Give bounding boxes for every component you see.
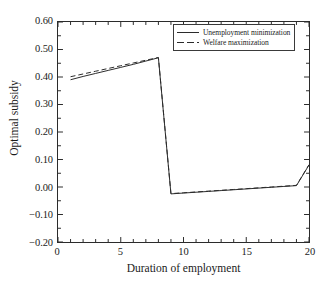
y-tick-label: 0.00 xyxy=(5,182,53,193)
x-tick-label: 15 xyxy=(232,246,262,257)
x-axis-title: Duration of employment xyxy=(57,262,310,274)
x-axis-tick-labels: 05101520 xyxy=(0,246,329,262)
axis-ticks xyxy=(58,22,309,242)
x-tick-label: 10 xyxy=(169,246,199,257)
legend-label-welfare-maximization: Welfare maximization xyxy=(203,38,269,47)
legend-item-welfare-maximization: Welfare maximization xyxy=(177,38,290,47)
x-tick-label: 20 xyxy=(295,246,325,257)
legend-line-sample-dashed xyxy=(177,38,199,47)
legend-line-sample-solid xyxy=(177,28,199,37)
plot-area xyxy=(57,21,310,243)
y-tick-label: 0.40 xyxy=(5,71,53,82)
y-tick-label: 0.30 xyxy=(5,98,53,109)
y-tick-label: 0.50 xyxy=(5,43,53,54)
legend-item-unemployment-minimization: Unemployment minimization xyxy=(177,28,290,37)
x-tick-label: 0 xyxy=(42,246,72,257)
y-tick-label: 0.20 xyxy=(5,126,53,137)
series-line-unemployment-minimization xyxy=(71,58,309,194)
y-tick-label: 0.60 xyxy=(5,15,53,26)
plot-canvas xyxy=(58,22,309,242)
chart-figure: Optimal subsidy −0.20−0.100.000.100.200.… xyxy=(0,0,329,289)
y-tick-label: −0.10 xyxy=(5,209,53,220)
series-line-welfare-maximization xyxy=(71,57,309,193)
y-tick-label: 0.10 xyxy=(5,154,53,165)
chart-legend: Unemployment minimization Welfare maximi… xyxy=(173,24,295,51)
legend-label-unemployment-minimization: Unemployment minimization xyxy=(203,28,290,37)
data-series-group xyxy=(71,57,309,193)
x-tick-label: 5 xyxy=(105,246,135,257)
